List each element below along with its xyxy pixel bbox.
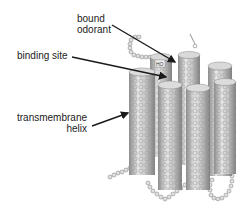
arrow-transmembrane-helix (92, 113, 128, 126)
label-bound-odorant: bound odorant (77, 13, 111, 35)
helix-front-3 (186, 84, 210, 190)
helix-front-2 (158, 81, 182, 190)
label-transmembrane-helix: transmembrane helix (17, 112, 87, 134)
ligand-marker: HO (156, 61, 164, 67)
label-binding-site: binding site (17, 50, 68, 61)
helix-front-1 (129, 68, 155, 175)
olfactory-receptor-diagram: HO (0, 0, 249, 222)
helix-front-4 (214, 79, 236, 175)
